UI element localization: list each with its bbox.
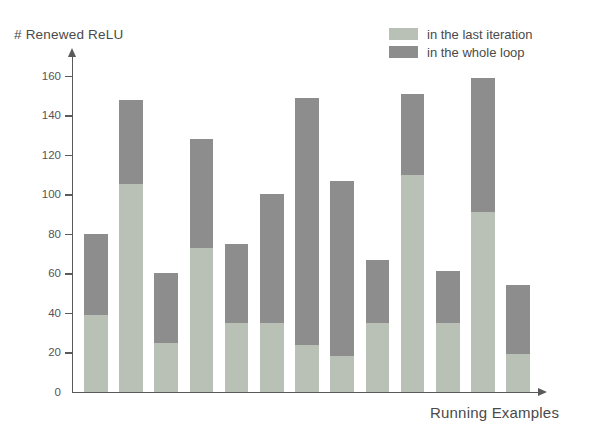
bar-segment-whole-loop: [330, 181, 354, 357]
y-tick-mark: [65, 234, 72, 235]
bar-column: [295, 98, 319, 392]
bar-segment-whole-loop: [366, 260, 390, 323]
y-axis-title: # Renewed ReLU: [14, 27, 123, 42]
bar-series-group: [72, 48, 547, 392]
bar-segment-last-iteration: [84, 315, 108, 392]
bar-segment-last-iteration: [119, 184, 143, 392]
y-tick-label: 80: [48, 228, 61, 240]
y-tick-label: 160: [42, 70, 61, 82]
bar-column: [471, 78, 495, 392]
y-tick-label: 140: [42, 109, 61, 121]
y-tick-mark: [65, 352, 72, 353]
bar-segment-last-iteration: [471, 212, 495, 392]
bar-segment-last-iteration: [190, 248, 214, 392]
bar-segment-last-iteration: [225, 323, 249, 392]
bar-segment-last-iteration: [260, 323, 284, 392]
bar-column: [154, 273, 178, 392]
legend-label-last-iteration: in the last iteration: [427, 27, 533, 42]
bar-segment-last-iteration: [436, 323, 460, 392]
bar-segment-whole-loop: [436, 271, 460, 322]
y-tick-label: 60: [48, 267, 61, 279]
y-tick-label: 120: [42, 149, 61, 161]
bar-segment-last-iteration: [506, 354, 530, 392]
bar-segment-last-iteration: [366, 323, 390, 392]
bar-segment-last-iteration: [154, 343, 178, 392]
bar-column: [330, 181, 354, 392]
bar-segment-whole-loop: [154, 273, 178, 342]
bar-segment-whole-loop: [190, 139, 214, 248]
bar-column: [366, 260, 390, 392]
bar-segment-whole-loop: [260, 194, 284, 322]
bar-segment-whole-loop: [119, 100, 143, 185]
y-tick-label: 40: [48, 307, 61, 319]
y-tick-label: 0: [55, 386, 61, 398]
bar-segment-whole-loop: [295, 98, 319, 345]
bar-segment-whole-loop: [225, 244, 249, 323]
bar-column: [401, 94, 425, 392]
y-tick-mark: [65, 76, 72, 77]
bar-column: [506, 285, 530, 392]
y-tick-mark: [65, 115, 72, 116]
y-tick-mark: [65, 155, 72, 156]
bar-column: [225, 244, 249, 392]
y-tick-mark: [65, 273, 72, 274]
x-axis-line: [72, 392, 538, 393]
y-tick-mark: [65, 313, 72, 314]
bar-segment-last-iteration: [330, 356, 354, 392]
legend-item-last-iteration: in the last iteration: [389, 26, 533, 42]
bar-segment-last-iteration: [295, 345, 319, 392]
y-tick-label: 100: [42, 188, 61, 200]
bar-column: [84, 234, 108, 392]
bar-column: [260, 194, 284, 392]
x-axis-title: Running Examples: [430, 404, 559, 421]
bar-column: [190, 139, 214, 392]
bar-segment-whole-loop: [471, 78, 495, 212]
bar-segment-whole-loop: [84, 234, 108, 315]
bar-segment-last-iteration: [401, 175, 425, 392]
y-tick-mark: [65, 194, 72, 195]
legend-swatch-last-iteration: [389, 28, 418, 40]
y-tick-label: 20: [48, 346, 61, 358]
bar-chart: # Renewed ReLU in the last iteration in …: [0, 0, 591, 440]
bar-column: [119, 99, 143, 392]
plot-area: 020406080100120140160: [72, 48, 547, 392]
bar-segment-whole-loop: [506, 285, 530, 354]
bar-segment-whole-loop: [401, 94, 425, 175]
bar-column: [436, 271, 460, 392]
